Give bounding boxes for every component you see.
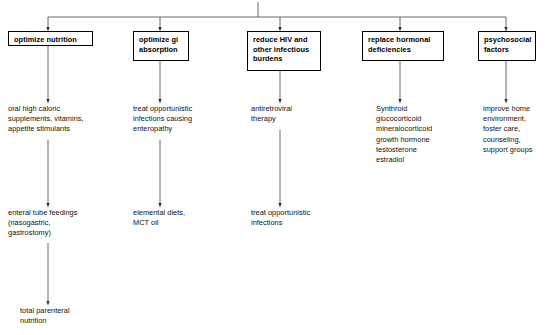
node-hormone-replacement-list[interactable]: Synthroid glucocorticoid mineralocortico… (376, 104, 484, 165)
node-psychosocial-support-list[interactable]: improve home environment, foster care, c… (483, 104, 549, 155)
node-elemental-diets-mct-oil[interactable]: elemental diets, MCT oil (133, 208, 237, 228)
header-box-reduce-hiv-and-other-infectious-burdens[interactable]: reduce HIV and other infectious burdens (247, 31, 321, 71)
node-total-parenteral-nutrition[interactable]: total parenteral nutrition (20, 306, 124, 326)
header-box-replace-hormonal-deficiencies[interactable]: replace hormonal deficiencies (362, 31, 444, 61)
node-treat-opportunistic-infections-enteropathy[interactable]: treat opportunistic infections causing e… (133, 104, 237, 135)
header-box-psychosocial-factors[interactable]: psychosocial factors (478, 31, 536, 61)
node-treat-opportunistic-infections[interactable]: treat opportunistic infections (251, 208, 355, 228)
node-enteral-tube-feedings[interactable]: enteral tube feedings (nasogastric, gast… (8, 208, 112, 239)
header-box-optimize-gi-absorption[interactable]: optimize gi absorption (133, 31, 189, 61)
node-antiretroviral-therapy[interactable]: antiretroviral therapy (251, 104, 355, 124)
flowchart-canvas: optimize nutrition oral high caloric sup… (0, 0, 549, 335)
header-box-optimize-nutrition[interactable]: optimize nutrition (8, 31, 93, 46)
node-oral-high-caloric-supplements[interactable]: oral high caloric supplements, vitamins,… (8, 104, 112, 135)
